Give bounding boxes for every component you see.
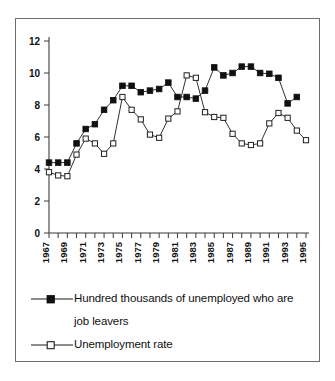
y-tick-label: 10	[29, 68, 41, 79]
data-point-hollow	[157, 135, 162, 140]
x-tick-label: 1993	[279, 242, 290, 263]
data-point-filled	[55, 160, 61, 166]
x-tick-label: 1979	[150, 242, 161, 263]
data-point-hollow	[221, 115, 226, 120]
x-tick-label: 1989	[242, 242, 253, 263]
x-tick-label: 1987	[224, 242, 235, 263]
data-point-hollow	[138, 117, 143, 122]
x-tick-label: 1981	[169, 241, 180, 263]
x-tick-label: 1995	[297, 241, 308, 263]
x-axis: 1967196919711973197519771979198119831985…	[40, 233, 309, 263]
data-point-hollow	[267, 121, 272, 126]
data-point-filled	[184, 94, 190, 100]
y-tick-label: 4	[34, 164, 40, 175]
chart-legend: Hundred thousands of unemployed who are …	[30, 291, 316, 360]
data-point-hollow	[83, 136, 88, 141]
data-point-filled	[156, 86, 162, 92]
data-point-filled	[101, 107, 107, 113]
x-tick-label: 1967	[40, 242, 51, 263]
legend-item-unemployment-rate: Unemployment rate	[30, 337, 316, 352]
y-tick-label: 12	[29, 36, 41, 47]
data-point-filled	[248, 64, 254, 70]
x-tick-label: 1991	[260, 241, 271, 263]
data-point-hollow	[230, 131, 235, 136]
data-point-filled	[65, 160, 71, 166]
hollow-square-marker	[30, 338, 74, 352]
data-point-hollow	[147, 132, 152, 137]
data-point-hollow	[166, 116, 171, 121]
data-point-hollow	[56, 173, 61, 178]
data-point-filled	[92, 121, 98, 127]
data-point-hollow	[202, 110, 207, 115]
x-tick-label: 1969	[58, 242, 69, 263]
y-tick-label: 6	[34, 132, 40, 143]
data-point-filled	[110, 97, 116, 103]
data-point-filled	[83, 126, 89, 132]
data-point-filled	[294, 94, 300, 100]
data-point-filled	[138, 89, 144, 95]
legend-label-unemployment-rate: Unemployment rate	[74, 337, 173, 351]
data-point-hollow	[212, 114, 217, 119]
filled-square-marker	[30, 292, 74, 306]
data-point-filled	[74, 141, 80, 147]
x-tick-label: 1977	[132, 242, 143, 263]
data-point-hollow	[258, 141, 263, 146]
data-point-filled	[202, 88, 208, 94]
legend-label-job-leavers-line2: job leavers	[30, 314, 316, 328]
x-tick-label: 1983	[187, 242, 198, 263]
x-tick-label: 1973	[95, 242, 106, 263]
data-point-filled	[266, 71, 272, 77]
data-point-hollow	[120, 94, 125, 99]
data-point-hollow	[248, 142, 253, 147]
data-point-hollow	[276, 110, 281, 115]
y-tick-label: 2	[34, 196, 40, 207]
data-point-filled	[257, 70, 263, 76]
data-point-filled	[285, 101, 291, 107]
data-point-hollow	[65, 174, 70, 179]
data-point-filled	[221, 73, 227, 79]
x-tick-label: 1971	[77, 241, 88, 263]
legend-label-job-leavers: Hundred thousands of unemployed who are	[74, 291, 293, 305]
data-point-hollow	[285, 115, 290, 120]
data-point-hollow	[101, 151, 106, 156]
data-point-hollow	[111, 141, 116, 146]
data-point-filled	[211, 65, 217, 71]
y-tick-label: 0	[34, 228, 40, 239]
data-point-hollow	[46, 170, 51, 175]
legend-item-job-leavers: Hundred thousands of unemployed who are	[30, 291, 316, 306]
data-point-hollow	[193, 75, 198, 80]
data-point-filled	[166, 80, 172, 86]
data-point-filled	[120, 83, 126, 89]
data-point-filled	[147, 88, 153, 94]
data-point-filled	[193, 96, 199, 102]
y-tick-label: 8	[34, 100, 40, 111]
data-point-hollow	[175, 109, 180, 114]
data-point-filled	[175, 94, 181, 100]
data-point-hollow	[184, 73, 189, 78]
chart-figure-frame: 024681012 196719691971197319751977197919…	[15, 18, 320, 362]
data-point-filled	[230, 70, 236, 76]
data-point-hollow	[303, 138, 308, 143]
data-point-filled	[239, 64, 245, 70]
data-point-hollow	[74, 152, 79, 157]
data-point-filled	[46, 160, 52, 166]
x-tick-label: 1985	[205, 241, 216, 263]
y-axis: 024681012	[29, 36, 49, 239]
data-point-hollow	[294, 128, 299, 133]
data-point-filled	[276, 75, 282, 81]
data-point-hollow	[129, 107, 134, 112]
data-point-hollow	[92, 141, 97, 146]
x-tick-label: 1975	[113, 241, 124, 263]
data-series-group	[46, 64, 308, 179]
data-point-filled	[129, 83, 135, 89]
data-point-hollow	[239, 141, 244, 146]
